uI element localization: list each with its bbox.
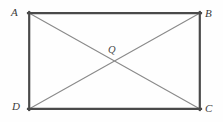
vertex-label-c: C (205, 103, 212, 114)
vertex-label-d: D (12, 101, 20, 112)
figure-canvas (0, 0, 223, 122)
geometry-figure: A B C D Q (0, 0, 223, 122)
vertex-label-a: A (11, 7, 18, 18)
vertex-label-b: B (205, 8, 212, 19)
point-label-q: Q (108, 45, 116, 56)
